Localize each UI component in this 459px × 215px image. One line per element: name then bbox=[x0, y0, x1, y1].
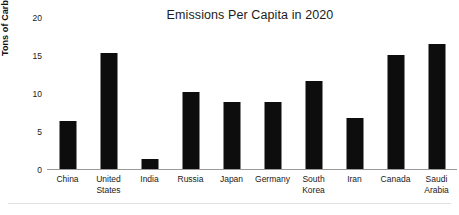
y-axis-title: Tons of Carbon Emissions bbox=[0, 0, 14, 56]
x-tick-label: India bbox=[140, 174, 158, 185]
bar-slot bbox=[170, 18, 211, 170]
figure-bottom-rule bbox=[8, 203, 451, 204]
y-tick-label: 10 bbox=[16, 89, 42, 99]
bar-slot bbox=[88, 18, 129, 170]
bar-slot bbox=[416, 18, 457, 170]
bar-slot bbox=[129, 18, 170, 170]
bar-slot bbox=[47, 18, 88, 170]
y-tick-label: 5 bbox=[16, 127, 42, 137]
bar-slot bbox=[334, 18, 375, 170]
y-tick-label: 0 bbox=[16, 165, 42, 175]
bar-chart-figure: Emissions Per Capita in 2020 Tons of Car… bbox=[0, 0, 459, 215]
x-tick-label: Russia bbox=[178, 174, 204, 185]
bar bbox=[346, 118, 363, 170]
bar-slot bbox=[211, 18, 252, 170]
bar-slot bbox=[252, 18, 293, 170]
x-tick-label: Japan bbox=[220, 174, 243, 185]
x-tick-label: Canada bbox=[381, 174, 411, 185]
bar bbox=[59, 121, 76, 170]
x-tick-label: China bbox=[56, 174, 78, 185]
bar bbox=[223, 102, 240, 170]
y-tick-label: 20 bbox=[16, 13, 42, 23]
bar bbox=[387, 55, 404, 170]
bar bbox=[264, 102, 281, 170]
bar-slot bbox=[293, 18, 334, 170]
bar bbox=[305, 81, 322, 170]
bar-series bbox=[47, 18, 457, 170]
plot-area: 05101520 bbox=[47, 18, 457, 170]
bar bbox=[100, 53, 117, 170]
x-tick-label: Iran bbox=[347, 174, 362, 185]
x-axis-baseline bbox=[47, 169, 457, 170]
x-tick-label: SaudiArabia bbox=[424, 174, 449, 195]
bar bbox=[182, 92, 199, 170]
x-tick-label: Germany bbox=[255, 174, 290, 185]
x-tick-label: SouthKorea bbox=[302, 174, 325, 195]
x-tick-label: UnitedStates bbox=[96, 174, 121, 195]
bar bbox=[428, 44, 445, 170]
y-tick-label: 15 bbox=[16, 51, 42, 61]
bar-slot bbox=[375, 18, 416, 170]
x-axis-tick-labels: ChinaUnitedStatesIndiaRussiaJapanGermany… bbox=[47, 174, 457, 200]
